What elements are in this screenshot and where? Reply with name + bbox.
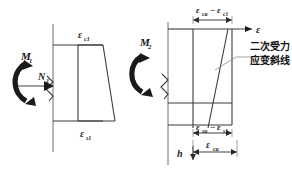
right-top-dim-minus: −	[210, 5, 215, 15]
engineering-figure: M 1 N 1 ε c1 ε s1	[0, 0, 292, 173]
figure-canvas: M 1 N 1 ε c1 ε s1	[0, 0, 292, 173]
right-strain-axis-label: ε	[256, 24, 261, 35]
right-bottom-dim-epsilon-1: ε	[196, 122, 200, 132]
right-bottom-dim-minus: −	[210, 122, 215, 132]
right-bottom-dim-epsilon-2: ε	[217, 122, 221, 132]
right-moment-arrowhead-top	[139, 53, 150, 63]
right-top-dim-epsilon-2: ε	[217, 5, 221, 15]
left-top-strain-subscript: c1	[84, 36, 90, 42]
right-moment-arrowhead-bottom	[141, 88, 153, 97]
right-overall-dim-subscript: cu	[213, 146, 220, 152]
left-diagram-group: M 1 N 1 ε c1 ε s1	[15, 24, 115, 152]
left-strain-inclined-line	[103, 45, 115, 121]
right-top-dim-subscript-c1: c1	[223, 11, 228, 17]
left-moment-subscript: 1	[29, 57, 32, 64]
right-top-dim-epsilon-1: ε	[196, 5, 200, 15]
right-break-symbol	[161, 74, 168, 99]
right-overall-dim-epsilon: ε	[206, 140, 210, 150]
left-axial-subscript: 1	[46, 77, 49, 84]
right-bottom-dim-subscript-s1: s1	[222, 128, 228, 134]
right-bottom-dim-subscript-su: su	[201, 128, 207, 134]
right-top-dim-subscript-cu: cu	[202, 11, 208, 17]
right-height-label: h	[177, 148, 183, 159]
right-diagram-group: M 2 ε ε cu − ε c1 ε su − ε s1	[132, 5, 290, 165]
left-axial-label: N	[37, 71, 46, 82]
right-annotation-line-1: 二次受力	[250, 40, 290, 52]
right-moment-subscript: 2	[147, 43, 152, 50]
right-annotation-line-2: 应变斜线	[250, 54, 290, 66]
left-bottom-strain-subscript: s1	[85, 135, 91, 141]
right-secondary-strain-inclined-line	[208, 29, 228, 128]
left-top-strain-label: ε	[78, 30, 82, 40]
left-moment-arrowhead-bottom	[25, 97, 36, 106]
left-bottom-strain-label: ε	[80, 129, 84, 139]
